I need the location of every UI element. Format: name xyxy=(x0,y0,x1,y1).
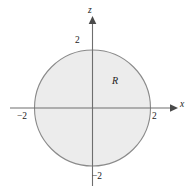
graph-svg xyxy=(0,0,193,192)
region-label: R xyxy=(112,76,118,86)
figure-canvas: z x 2 −2 −2 2 R xyxy=(0,0,193,192)
z-axis-label: z xyxy=(88,6,92,16)
x-axis-tick-label-negative: −2 xyxy=(17,112,27,122)
x-axis-arrowhead xyxy=(170,104,178,112)
z-axis-arrowhead xyxy=(89,16,97,24)
x-axis-tick-label-positive: 2 xyxy=(152,112,157,122)
x-axis-label: x xyxy=(180,100,184,110)
z-axis-tick-label-positive: 2 xyxy=(75,36,80,46)
z-axis-tick-label-negative: −2 xyxy=(92,172,102,182)
